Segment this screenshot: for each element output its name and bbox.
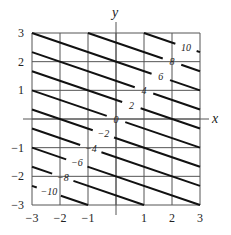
contour-plot: x y −3−2−1123−3−2−1123 −10−8−6−4−2024681… xyxy=(0,0,231,235)
level-curve xyxy=(32,167,52,174)
y-tick-label: −2 xyxy=(11,169,24,183)
level-curve xyxy=(73,181,144,205)
level-curve xyxy=(88,33,163,59)
level-curve xyxy=(32,33,152,74)
x-tick-label: −3 xyxy=(26,211,39,225)
level-label: −4 xyxy=(85,143,97,154)
y-tick-label: 2 xyxy=(18,55,24,69)
level-curve xyxy=(170,80,200,90)
x-tick-label: −2 xyxy=(54,211,67,225)
level-curve xyxy=(32,129,80,145)
y-tick-label: 1 xyxy=(18,83,24,97)
level-curve xyxy=(125,122,200,148)
x-axis-label: x xyxy=(211,111,219,126)
level-curve xyxy=(61,196,88,205)
level-label: 4 xyxy=(142,85,147,96)
level-curve xyxy=(181,65,200,71)
level-label: 10 xyxy=(181,42,191,53)
level-curve xyxy=(141,108,200,128)
axes: x y xyxy=(23,5,219,215)
level-label: −2 xyxy=(98,128,110,139)
level-curve xyxy=(197,51,200,52)
y-tick-label: 3 xyxy=(18,26,24,40)
level-curve xyxy=(32,186,37,188)
x-tick-label: 1 xyxy=(141,211,147,225)
level-label: 6 xyxy=(158,71,163,82)
level-curve xyxy=(153,93,200,109)
level-label: −10 xyxy=(40,186,57,197)
level-label: 0 xyxy=(114,114,119,125)
level-curve xyxy=(32,109,93,130)
level-label: −6 xyxy=(71,157,83,168)
y-axis-label: y xyxy=(110,5,119,20)
y-tick-label: −1 xyxy=(11,141,24,155)
level-curve xyxy=(114,137,200,166)
level-label: 8 xyxy=(170,56,175,67)
level-label: 2 xyxy=(129,100,134,111)
x-tick-label: 3 xyxy=(197,211,203,225)
level-curve xyxy=(32,71,122,102)
x-tick-label: −1 xyxy=(82,211,95,225)
level-curve xyxy=(32,52,135,87)
level-label: −8 xyxy=(57,172,69,183)
level-curve xyxy=(32,90,107,116)
level-curve xyxy=(144,33,175,44)
y-tick-label: −3 xyxy=(11,198,24,212)
level-curve xyxy=(32,148,66,160)
x-tick-label: 2 xyxy=(169,211,175,225)
